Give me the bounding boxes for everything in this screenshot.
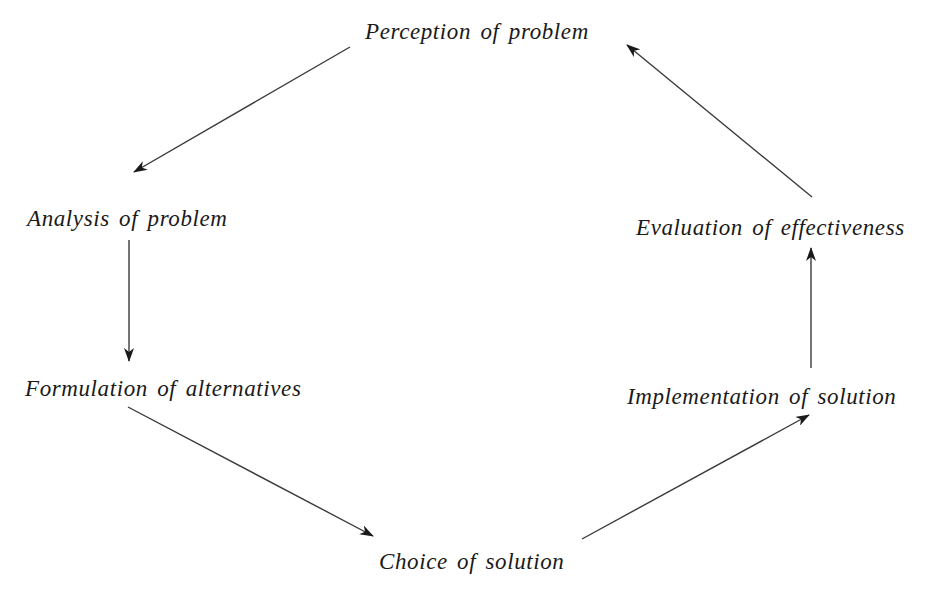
node-perception-of-problem: Perception of problem <box>365 20 589 43</box>
arrow-perception-to-analysis <box>134 47 350 172</box>
arrow-choice-to-implementation <box>582 415 809 539</box>
node-choice-of-solution: Choice of solution <box>379 550 564 573</box>
node-implementation-of-solution: Implementation of solution <box>627 385 896 408</box>
node-analysis-of-problem: Analysis of problem <box>27 207 228 230</box>
arrow-evaluation-to-perception <box>627 45 812 197</box>
arrow-formulation-to-choice <box>128 407 373 536</box>
problem-solving-cycle-diagram: Perception of problem Analysis of proble… <box>0 0 951 600</box>
node-evaluation-of-effectiveness: Evaluation of effectiveness <box>636 216 905 239</box>
cycle-arrows <box>0 0 951 600</box>
node-formulation-of-alternatives: Formulation of alternatives <box>25 377 301 400</box>
